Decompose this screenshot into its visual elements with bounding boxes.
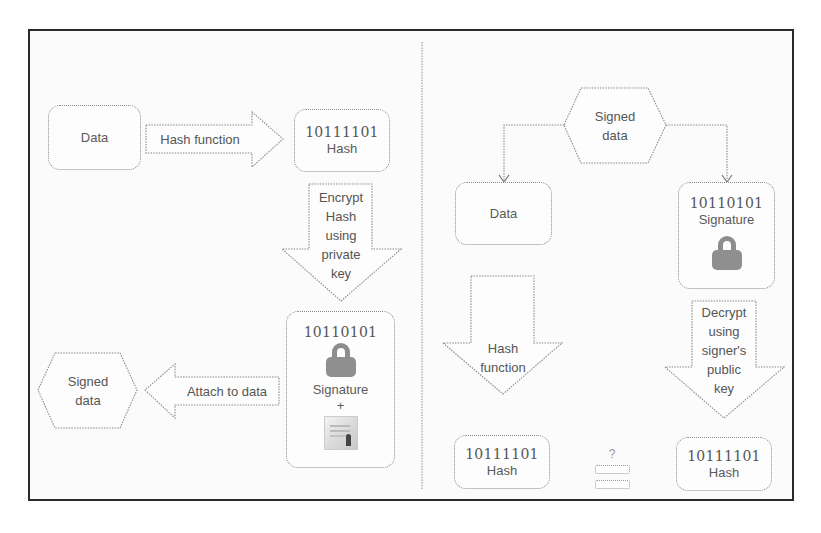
equals-icon-top-bar bbox=[595, 465, 630, 474]
encrypt-line: key bbox=[300, 264, 382, 283]
hash-value: 10111101 bbox=[687, 448, 761, 464]
encrypt-line: using bbox=[300, 226, 382, 245]
connector-to-signature bbox=[666, 125, 727, 180]
verify-hash-arrow-label: Hash function bbox=[463, 339, 543, 377]
hash-line: function bbox=[463, 358, 543, 377]
plus-sign: + bbox=[337, 398, 345, 413]
hash-box: 10111101 Hash bbox=[294, 109, 390, 172]
signature-label: Signature bbox=[313, 381, 369, 398]
encrypt-line: private bbox=[300, 245, 382, 264]
hash-value: 10111101 bbox=[305, 124, 379, 140]
hash-value: 10111101 bbox=[465, 446, 539, 462]
lock-icon bbox=[326, 343, 356, 377]
data-label: Data bbox=[490, 205, 517, 222]
data-box: Data bbox=[48, 105, 141, 170]
hash-line: Hash bbox=[463, 339, 543, 358]
comparison-question: ? bbox=[600, 446, 624, 463]
hash-label: Hash bbox=[487, 462, 517, 479]
signed-data-label-left: Signed data bbox=[48, 372, 128, 410]
signature-value: 10110101 bbox=[304, 324, 378, 340]
data-label: Data bbox=[81, 129, 108, 146]
verify-data-box: Data bbox=[455, 182, 552, 245]
verify-signature-box: 10110101 Signature bbox=[678, 182, 775, 289]
computed-hash-box: 10111101 Hash bbox=[454, 435, 550, 489]
connector-to-data bbox=[504, 125, 564, 180]
hash-label: Hash bbox=[709, 464, 739, 481]
signature-label: Signature bbox=[699, 211, 755, 228]
decrypt-line: Decrypt bbox=[684, 303, 764, 322]
decrypt-arrow-label: Decrypt using signer's public key bbox=[684, 303, 764, 398]
decrypt-line: key bbox=[684, 379, 764, 398]
signed-line: Signed bbox=[48, 372, 128, 391]
decrypt-line: public bbox=[684, 360, 764, 379]
decrypt-line: signer's bbox=[684, 341, 764, 360]
signature-box: 10110101 Signature + bbox=[286, 311, 395, 468]
signed-line: Signed bbox=[575, 107, 655, 126]
attach-arrow-label: Attach to data bbox=[176, 383, 278, 400]
hash-label: Hash bbox=[327, 140, 357, 157]
hash-function-arrow-label: Hash function bbox=[150, 131, 250, 148]
encrypt-line: Encrypt bbox=[300, 188, 382, 207]
signed-data-label-right: Signed data bbox=[575, 107, 655, 145]
encrypt-line: Hash bbox=[300, 207, 382, 226]
decrypted-hash-box: 10111101 Hash bbox=[676, 437, 772, 491]
encrypt-arrow-label: Encrypt Hash using private key bbox=[300, 188, 382, 283]
lock-icon bbox=[712, 236, 742, 270]
signed-line: data bbox=[575, 126, 655, 145]
signed-line: data bbox=[48, 391, 128, 410]
decrypt-line: using bbox=[684, 322, 764, 341]
equals-icon-bottom-bar bbox=[595, 480, 630, 489]
signature-value: 10110101 bbox=[690, 195, 764, 211]
certificate-icon bbox=[324, 416, 358, 450]
